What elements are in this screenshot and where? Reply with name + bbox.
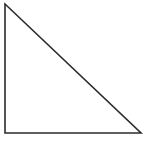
- triangle-drawing: [0, 0, 146, 141]
- right-triangle-shape: [5, 4, 141, 133]
- figure-canvas: [0, 0, 146, 141]
